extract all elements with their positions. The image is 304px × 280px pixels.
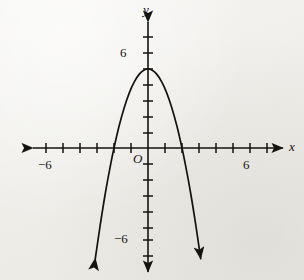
x-axis-label: x xyxy=(289,140,295,153)
y-axis xyxy=(143,22,153,272)
figure-canvas: x y O −6 6 6 −6 xyxy=(0,0,304,280)
origin-label: O xyxy=(133,152,142,165)
x-tick-label-negative-six: −6 xyxy=(38,158,52,171)
y-axis-label: y xyxy=(143,3,149,16)
y-tick-label-negative-six: −6 xyxy=(114,232,128,245)
x-tick-label-positive-six: 6 xyxy=(243,158,250,171)
x-axis xyxy=(33,143,283,153)
y-tick-label-positive-six: 6 xyxy=(120,46,127,59)
coordinate-plane xyxy=(0,0,304,280)
